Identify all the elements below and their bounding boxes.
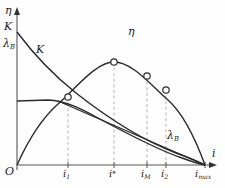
k-intercept-label: K bbox=[4, 21, 12, 32]
tick-label-i1: i1 bbox=[63, 169, 70, 180]
lambda-b-right-glyph: λ bbox=[167, 129, 174, 142]
eta-curve bbox=[17, 62, 205, 165]
lambda-b-right-subscript: B bbox=[174, 135, 179, 143]
y-axis-label: η bbox=[5, 5, 12, 16]
figure-container: η i O K λB K η λB i1 i* iM i2 imax bbox=[0, 0, 225, 188]
tick-label-i2: i2 bbox=[161, 169, 168, 180]
lambda-b-left-label: λB bbox=[3, 38, 15, 51]
tick-label-im: iM bbox=[141, 169, 151, 180]
chart-canvas bbox=[0, 0, 225, 188]
k-curve-label: K bbox=[36, 44, 44, 55]
eta-curve-label: η bbox=[128, 26, 135, 37]
axes-group bbox=[14, 7, 217, 170]
lambda-b-right-label: λB bbox=[167, 130, 179, 143]
x-axis-label: i bbox=[212, 148, 216, 159]
lambda-b-left-glyph: λ bbox=[3, 37, 10, 50]
tick-label-i2-sub: 2 bbox=[164, 173, 168, 180]
dashed-guides-group bbox=[68, 62, 166, 165]
marker-i1 bbox=[65, 94, 71, 100]
chord-line bbox=[58, 101, 205, 165]
x-axis-arrowhead bbox=[209, 162, 217, 168]
tick-label-im-sub: M bbox=[144, 173, 150, 180]
marker-i2 bbox=[163, 87, 169, 93]
tick-label-istar-sup: * bbox=[112, 170, 116, 178]
k-curve bbox=[17, 32, 205, 165]
lambda-b-left-subscript: B bbox=[10, 43, 15, 51]
y-axis-arrowhead bbox=[14, 7, 20, 15]
eta-markers-group bbox=[65, 59, 169, 100]
marker-im bbox=[144, 73, 150, 79]
tick-label-i1-sub: 1 bbox=[66, 173, 70, 180]
tick-label-imax: imax bbox=[195, 169, 211, 180]
tick-label-istar: i* bbox=[109, 169, 116, 179]
tick-label-imax-sub: max bbox=[198, 173, 211, 180]
marker-istar bbox=[111, 59, 117, 65]
origin-label: O bbox=[5, 166, 14, 177]
